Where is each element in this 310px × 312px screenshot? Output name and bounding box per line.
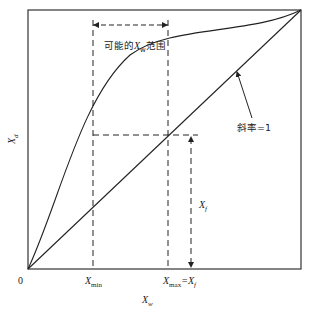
x-axis-label: Xw [142, 294, 153, 308]
xf-label: Xf [199, 199, 207, 213]
origin-label: 0 [18, 275, 23, 286]
slope-label: 斜率=1 [237, 120, 271, 134]
slope-pointer-arrow [237, 72, 252, 118]
tick-xmin: Xmin [85, 275, 102, 289]
y-axis-label: Xd [6, 134, 20, 144]
tick-xmax-eq-xf: Xmax=Xf [163, 275, 196, 289]
range-annotation: 可能的Xw范围 [104, 38, 166, 54]
